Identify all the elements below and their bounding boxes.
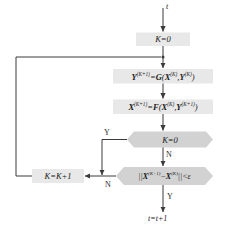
node-check-eps-shape — [116, 167, 213, 185]
node-init-shape — [136, 33, 190, 47]
node-increment-shape — [32, 169, 84, 183]
edge-label-checkk-no: N — [166, 150, 172, 159]
merge-junction-dot — [162, 56, 165, 59]
edge-label-checkk-yes: Y — [104, 128, 110, 137]
flowchart-graphics — [0, 0, 229, 234]
terminal-output-label: t=t+1 — [148, 214, 167, 223]
terminal-input-label: t — [166, 2, 168, 11]
edge-label-checkeps-yes: Y — [167, 192, 173, 201]
flowchart-canvas: t K=0 Y(K+1)=G(X(K),Y(K)) X(K+1)=F(X(K),… — [0, 0, 229, 234]
node-compute-y-shape — [113, 69, 213, 84]
node-check-k-shape — [127, 132, 213, 148]
edge-label-checkeps-no: N — [105, 180, 111, 189]
node-compute-x-shape — [113, 100, 213, 115]
